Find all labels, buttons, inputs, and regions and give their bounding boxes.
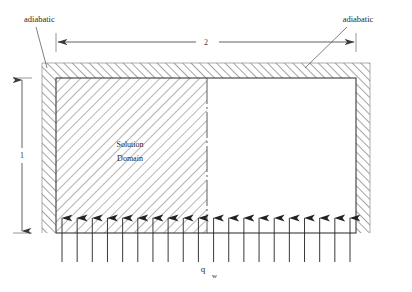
height-dimension: 1 [13,78,32,233]
solution-domain-line1: Solution [116,140,143,149]
diagram-canvas: 2 1 adiabatic adiabatic Solution Domain … [0,0,412,292]
width-dimension-label: 2 [204,38,208,47]
adiabatic-left-leader-line [36,27,47,68]
heat-flux-label: q w [201,264,218,280]
height-dimension-label: 1 [20,151,24,160]
adiabatic-left-annotation: adiabatic [24,14,55,68]
adiabatic-right-annotation: adiabatic [305,14,374,68]
adiabatic-right-leader-line [305,27,347,68]
heat-flux-symbol: q [201,264,206,274]
adiabatic-right-label: adiabatic [343,14,374,24]
width-dimension: 2 [56,33,356,52]
schematic-svg: 2 1 adiabatic adiabatic Solution Domain … [0,0,412,292]
adiabatic-left-label: adiabatic [24,14,55,24]
solution-domain-line2: Domain [117,154,143,163]
heat-flux-subscript: w [212,272,218,280]
